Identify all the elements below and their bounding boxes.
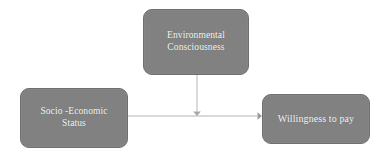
- node-willingness-to-pay[interactable]: Willingness to pay: [262, 94, 370, 144]
- node-label-environmental-consciousness: EnvironmentalConsciousness: [161, 30, 231, 53]
- node-label-socio-economic-status: Socio -EconomicStatus: [34, 106, 113, 129]
- node-label-line1: Socio -Economic: [40, 106, 107, 116]
- connector-socio-economic-status-to-willingness-to-pay: [128, 112, 262, 120]
- node-label-line2: Consciousness: [167, 42, 224, 52]
- connector-environmental-consciousness-to-path: [193, 75, 201, 116]
- node-label-willingness-to-pay: Willingness to pay: [272, 113, 360, 125]
- diagram-canvas: EnvironmentalConsciousness Socio -Econom…: [0, 0, 382, 164]
- arrowhead-down-icon: [193, 112, 201, 117]
- node-label-line2: Status: [62, 118, 86, 128]
- node-environmental-consciousness[interactable]: EnvironmentalConsciousness: [143, 9, 249, 75]
- node-socio-economic-status[interactable]: Socio -EconomicStatus: [20, 88, 128, 148]
- node-label-line1: Environmental: [167, 30, 225, 40]
